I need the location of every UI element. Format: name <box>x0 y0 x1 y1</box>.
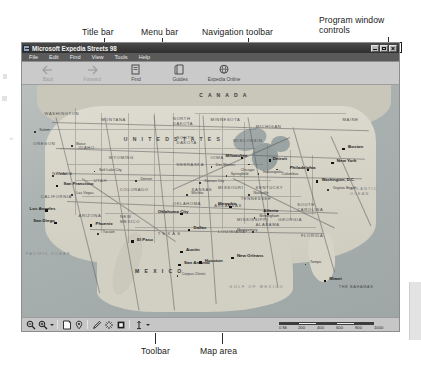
scale-tick: 200 <box>298 325 317 330</box>
maximize-button[interactable] <box>380 45 388 52</box>
city-label-minor: Columbus <box>282 172 299 176</box>
zoom-out-icon[interactable] <box>25 319 36 330</box>
nav-button-forward[interactable]: Forward <box>70 64 114 82</box>
city-marker-minor[interactable] <box>34 131 36 133</box>
city-marker[interactable] <box>131 240 133 242</box>
callout-toolbar: Toolbar <box>141 346 170 356</box>
map-area[interactable]: PACIFIC OCEAN ATLANTIC OCEAN Gulf of Mex… <box>22 85 399 317</box>
menu-item-tools[interactable]: Tools <box>110 53 134 62</box>
state-label: KENTUCKY <box>256 185 284 190</box>
state-label: WYOMING <box>109 155 134 160</box>
nav-button-guides[interactable]: Guides <box>158 64 202 82</box>
nav-button-back-label: Back <box>43 76 54 82</box>
city-marker[interactable] <box>342 148 344 150</box>
city-marker-minor[interactable] <box>71 145 73 147</box>
toolbar-separator-1 <box>57 320 58 329</box>
pushpin-icon[interactable] <box>73 319 84 330</box>
city-marker-minor[interactable] <box>276 169 278 171</box>
city-marker-minor[interactable] <box>248 164 250 166</box>
city-label: Dallas <box>194 225 207 230</box>
measure-icon[interactable] <box>133 319 144 330</box>
filled-square-icon[interactable] <box>115 319 126 330</box>
city-label: Austin <box>186 247 200 252</box>
application-window: Microsoft Expedia Streets 98 File Edit F… <box>21 42 400 332</box>
city-marker[interactable] <box>180 251 182 253</box>
toolbar: 0 Mi 200 400 600 800 1000 <box>22 317 399 331</box>
city-marker[interactable] <box>90 224 92 226</box>
menu-bar: File Edit Find View Tools Help <box>22 53 399 62</box>
city-label: San Francisco <box>63 181 93 186</box>
callout-navigation-toolbar: Navigation toolbar <box>202 27 273 37</box>
zoom-dropdown-caret-icon[interactable] <box>50 324 54 326</box>
close-button[interactable] <box>389 45 397 52</box>
city-marker-minor[interactable] <box>211 166 213 168</box>
state-label: MONTANA <box>101 117 126 122</box>
state-label: IOWA <box>211 155 224 160</box>
nav-button-back[interactable]: Back <box>26 64 70 82</box>
city-marker-minor[interactable] <box>52 175 54 177</box>
city-label-minor: Chicago <box>241 168 255 172</box>
city-marker-minor[interactable] <box>71 194 73 196</box>
nav-button-guides-label: Guides <box>172 76 187 82</box>
city-marker[interactable] <box>56 185 58 187</box>
city-marker-minor[interactable] <box>199 182 201 184</box>
city-marker[interactable] <box>178 264 180 266</box>
toolbar-separator-2 <box>87 320 88 329</box>
zoom-in-icon[interactable] <box>37 319 48 330</box>
state-label: NEBRASKA <box>177 162 205 167</box>
menu-item-edit[interactable]: Edit <box>44 53 65 62</box>
title-bar[interactable]: Microsoft Expedia Streets 98 <box>22 43 399 53</box>
city-label-minor: Birmingham <box>260 214 280 218</box>
region-label-canada: C A N A D A <box>199 92 248 98</box>
city-marker[interactable] <box>231 257 233 259</box>
city-marker-minor[interactable] <box>94 171 96 173</box>
menu-item-view[interactable]: View <box>87 53 110 62</box>
city-marker[interactable] <box>199 261 201 263</box>
city-label: Phoenix <box>96 221 113 226</box>
menu-item-find[interactable]: Find <box>65 53 87 62</box>
state-label: NEW MEXICO <box>120 215 142 225</box>
pencil-icon[interactable] <box>91 319 102 330</box>
city-marker[interactable] <box>324 280 326 282</box>
city-label-minor: Springfield <box>231 172 248 176</box>
map-note-icon[interactable] <box>61 319 72 330</box>
program-window-controls <box>371 45 397 52</box>
menu-item-file[interactable]: File <box>24 53 44 62</box>
city-label-minor: Tucson <box>103 230 115 234</box>
margin-artifact-text: s <box>8 138 14 141</box>
state-label: ALABAMA <box>256 222 280 227</box>
callout-menu-bar: Menu bar <box>141 27 178 37</box>
city-marker-minor[interactable] <box>327 189 329 191</box>
highlighter-icon[interactable] <box>103 319 114 330</box>
measure-dropdown-caret-icon[interactable] <box>146 324 150 326</box>
nav-button-find[interactable]: Find <box>114 64 158 82</box>
city-label: Detroit <box>273 156 287 161</box>
state-label: TENNESSEE <box>241 196 272 201</box>
city-marker-minor[interactable] <box>135 180 137 182</box>
leader-map-area <box>222 333 223 344</box>
city-marker-minor[interactable] <box>254 217 256 219</box>
city-label-minor: Salt Lake City <box>99 168 122 172</box>
city-label: Washington, D.C. <box>322 177 355 182</box>
city-marker[interactable] <box>269 159 271 161</box>
state-label: IDAHO <box>79 145 95 150</box>
city-label-minor: Des Moines <box>216 163 235 167</box>
menu-item-help[interactable]: Help <box>134 53 157 62</box>
city-marker[interactable] <box>188 229 190 231</box>
application-icon <box>23 45 30 52</box>
city-marker-minor[interactable] <box>248 194 250 196</box>
city-marker-minor[interactable] <box>258 173 260 175</box>
city-marker-minor[interactable] <box>177 275 179 277</box>
city-marker-minor[interactable] <box>186 194 188 196</box>
state-label: CALIFORNIA <box>41 194 72 199</box>
city-marker[interactable] <box>316 180 318 182</box>
nav-button-expedia-online[interactable]: Expedia Online <box>202 64 246 82</box>
city-marker-minor[interactable] <box>305 264 307 266</box>
region-label-bahamas: THE BAHAMAS <box>339 285 374 289</box>
city-label-minor: Boise <box>76 142 85 146</box>
city-label: Milwaukee <box>226 153 248 158</box>
city-marker[interactable] <box>331 162 333 164</box>
city-marker-minor[interactable] <box>226 175 228 177</box>
minimize-button[interactable] <box>371 45 379 52</box>
city-marker-minor[interactable] <box>97 233 99 235</box>
